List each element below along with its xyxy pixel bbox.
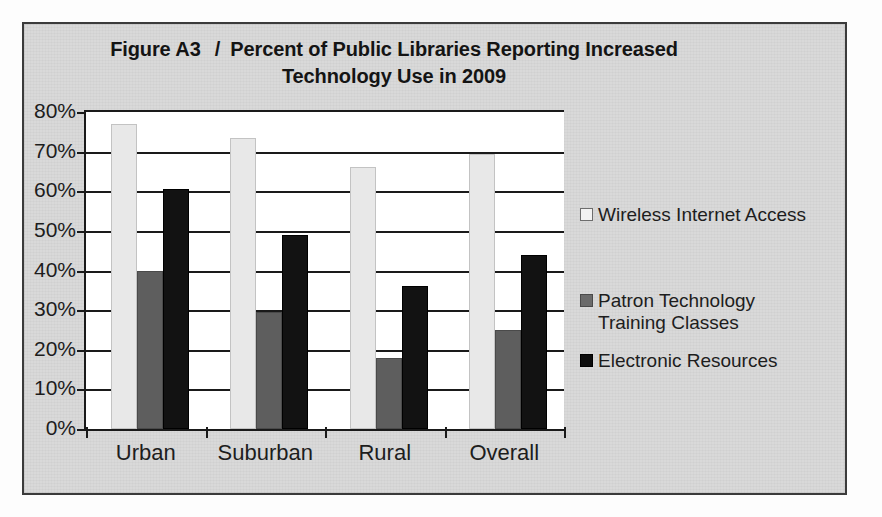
legend-label-wireless: Wireless Internet Access bbox=[598, 204, 806, 226]
bar-rural-electronic-resources bbox=[402, 286, 428, 429]
chart-title-line-2: Technology Use in 2009 bbox=[64, 63, 724, 90]
y-axis-tick bbox=[77, 271, 86, 273]
scanned-page: Figure A3/Percent of Public Libraries Re… bbox=[0, 0, 882, 517]
bar-group-rural bbox=[350, 112, 428, 429]
y-axis-label: 50% bbox=[20, 218, 76, 239]
chart-title-line-1: Figure A3/Percent of Public Libraries Re… bbox=[64, 36, 724, 63]
bar-urban-electronic-resources bbox=[163, 189, 189, 429]
x-axis-tick bbox=[86, 427, 88, 438]
y-axis-label: 30% bbox=[20, 298, 76, 319]
y-axis-label: 20% bbox=[20, 337, 76, 358]
x-axis-tick bbox=[445, 427, 447, 438]
y-axis-label: 60% bbox=[20, 179, 76, 200]
bar-suburban-electronic-resources bbox=[282, 235, 308, 429]
title-separator: / bbox=[215, 38, 220, 60]
y-axis-tick bbox=[77, 389, 86, 391]
legend-label-electronic: Electronic Resources bbox=[598, 350, 778, 372]
bar-overall-electronic-resources bbox=[521, 255, 547, 429]
legend-swatch-electronic-icon bbox=[580, 354, 593, 367]
y-axis-label: 10% bbox=[20, 377, 76, 398]
bar-group-urban bbox=[111, 112, 189, 429]
legend-item-patron[interactable]: Patron Technology Training Classes bbox=[580, 290, 755, 335]
y-axis-label: 40% bbox=[20, 258, 76, 279]
bar-urban-patron-technology-training-classes bbox=[137, 271, 163, 430]
legend-swatch-patron-icon bbox=[580, 294, 593, 307]
bar-group-overall bbox=[469, 112, 547, 429]
y-axis-tick bbox=[77, 350, 86, 352]
bar-overall-patron-technology-training-classes bbox=[495, 330, 521, 429]
bars-layer bbox=[86, 112, 562, 429]
y-axis-label: 70% bbox=[20, 139, 76, 160]
legend-swatch-wireless-icon bbox=[580, 208, 593, 221]
bar-group-suburban bbox=[230, 112, 308, 429]
bar-overall-wireless-internet-access bbox=[469, 154, 495, 429]
x-axis-label-urban: Urban bbox=[116, 442, 176, 464]
x-axis-tick bbox=[206, 427, 208, 438]
figure-frame: Figure A3/Percent of Public Libraries Re… bbox=[22, 22, 847, 495]
bar-urban-wireless-internet-access bbox=[111, 124, 137, 429]
chart-title: Figure A3/Percent of Public Libraries Re… bbox=[64, 36, 724, 89]
bar-suburban-patron-technology-training-classes bbox=[256, 312, 282, 429]
x-axis-label-overall: Overall bbox=[469, 442, 539, 464]
x-axis-label-suburban: Suburban bbox=[218, 442, 313, 464]
x-axis-tick bbox=[325, 427, 327, 438]
y-axis-label: 0% bbox=[20, 417, 76, 438]
bar-suburban-wireless-internet-access bbox=[230, 138, 256, 429]
x-axis-ticks bbox=[84, 427, 564, 439]
bar-rural-wireless-internet-access bbox=[350, 167, 376, 429]
chart-title-text-1: Percent of Public Libraries Reporting In… bbox=[230, 38, 678, 60]
y-axis-tick bbox=[77, 152, 86, 154]
x-axis-labels: UrbanSuburbanRuralOverall bbox=[84, 442, 564, 476]
legend-label-patron: Patron Technology Training Classes bbox=[598, 290, 755, 335]
x-axis-tick bbox=[564, 427, 566, 438]
y-axis-tick bbox=[77, 310, 86, 312]
legend-item-electronic[interactable]: Electronic Resources bbox=[580, 350, 778, 372]
y-axis-labels: 80%70%60%50%40%30%20%10%0% bbox=[24, 110, 76, 427]
y-axis-tick bbox=[77, 231, 86, 233]
y-axis-tick bbox=[77, 112, 86, 114]
figure-number: Figure A3 bbox=[110, 38, 201, 60]
legend-item-wireless[interactable]: Wireless Internet Access bbox=[580, 204, 806, 226]
y-axis-tick bbox=[77, 191, 86, 193]
x-axis-label-rural: Rural bbox=[358, 442, 411, 464]
y-axis-label: 80% bbox=[20, 100, 76, 121]
bar-rural-patron-technology-training-classes bbox=[376, 358, 402, 429]
